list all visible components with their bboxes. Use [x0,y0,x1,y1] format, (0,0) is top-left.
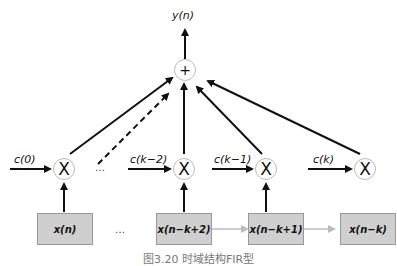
multiply-icon: X [359,159,371,179]
multiply-icon: X [58,159,70,179]
multiplier-k-1: X [255,158,277,180]
output-label: y(n) [172,10,194,21]
register-block: x(n) [37,213,93,245]
multiplier-k-2: X [173,158,195,180]
coefficient-label: c(k−2) [130,154,167,165]
figure-caption: 图3.20 时域结构FIR型 [0,250,397,266]
tapk-sum-arrow [208,81,360,154]
adder-node: + [174,59,196,81]
register-block: x(n−k+2) [156,213,212,245]
multiply-icon: X [260,159,272,179]
multiply-icon: X [178,159,190,179]
coefficient-label: c(k) [313,154,334,165]
plus-icon: + [179,62,191,78]
ellipsis: … [115,224,125,235]
ellipsis: … [95,162,105,173]
tapk1-sum-arrow [197,87,262,154]
register-block: x(n−k) [340,213,396,245]
coefficient-label: c(k−1) [214,154,251,165]
coefficient-label: c(0) [14,154,36,165]
multiplier-k: X [354,158,376,180]
register-block: x(n−k+1) [248,213,304,245]
multiplier-0: X [53,158,75,180]
tap0-sum-arrow [70,78,172,154]
